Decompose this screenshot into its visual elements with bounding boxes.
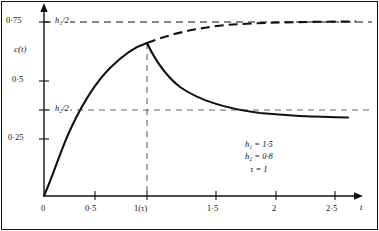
x-tick-label-0: 0: [41, 203, 45, 213]
series-rise-phase: [44, 43, 147, 196]
parameter-h1-text: h₁ = 1·5: [245, 139, 273, 149]
x-tick-label-05: 0·5: [85, 203, 96, 213]
chart-svg: [0, 0, 379, 231]
parameter-tau-text: τ = 1: [250, 164, 267, 174]
parameter-tau: τ = 1: [245, 163, 273, 175]
y-axis-label: c(t): [14, 44, 27, 54]
x-axis-label: t: [360, 202, 363, 212]
parameter-h1: h₁ = 1·5: [245, 138, 273, 150]
series-decay-phase: [147, 43, 348, 118]
x-axis-arrow-icon: [354, 192, 363, 199]
y-tick-label-050: 0·5: [12, 74, 23, 84]
parameter-h2: h₂ = 0·8: [245, 150, 273, 162]
figure-container: 0·75 0·5 0·25 c(t) 0 0·5 1(τ) 1·5 2 2·5 …: [0, 0, 379, 231]
y-tick-label-075: 0·75: [6, 15, 22, 25]
x-tick-label-25: 2·5: [326, 203, 337, 213]
parameter-h2-text: h₂ = 0·8: [245, 151, 273, 161]
h2-half-asymptote-label: h₂/2: [54, 103, 70, 113]
x-tick-label-2: 2: [272, 203, 276, 213]
y-tick-label-025: 0·25: [8, 132, 24, 142]
parameter-annotations: h₁ = 1·5 h₂ = 0·8 τ = 1: [245, 138, 273, 175]
series-continued-rise-dashed: [147, 22, 356, 44]
x-tick-label-15: 1·5: [207, 203, 218, 213]
h1-half-asymptote-label: h₁/2: [54, 15, 70, 25]
y-axis-arrow-icon: [40, 3, 47, 12]
x-tick-label-1tau: 1(τ): [134, 203, 147, 213]
